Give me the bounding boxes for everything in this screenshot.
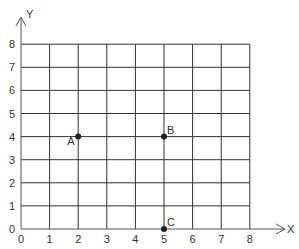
y-axis-label: Y [26, 8, 34, 20]
tick-labels: 012345678012345678 [9, 38, 253, 245]
y-tick-label: 4 [9, 131, 15, 143]
coordinate-grid: Y X 012345678012345678 ABC [0, 0, 299, 249]
data-points: ABC [67, 124, 175, 232]
point-label-b: B [167, 124, 174, 136]
y-tick-label: 0 [9, 223, 15, 235]
point-label-c: C [167, 216, 175, 228]
x-tick-label: 7 [218, 233, 224, 245]
point-a [75, 134, 81, 140]
grid-lines [21, 44, 250, 229]
y-tick-label: 3 [9, 154, 15, 166]
point-label-a: A [67, 135, 75, 147]
x-tick-label: 0 [18, 233, 24, 245]
y-tick-label: 5 [9, 108, 15, 120]
x-tick-label: 4 [132, 233, 138, 245]
x-tick-label: 1 [47, 233, 53, 245]
y-tick-label: 6 [9, 84, 15, 96]
x-tick-label: 3 [104, 233, 110, 245]
x-tick-label: 6 [190, 233, 196, 245]
y-tick-label: 1 [9, 200, 15, 212]
x-tick-label: 2 [75, 233, 81, 245]
y-tick-label: 8 [9, 38, 15, 50]
y-tick-label: 7 [9, 61, 15, 73]
x-tick-label: 5 [161, 233, 167, 245]
x-tick-label: 8 [247, 233, 253, 245]
axes: Y X [16, 8, 295, 235]
x-axis-label: X [287, 223, 295, 235]
y-tick-label: 2 [9, 177, 15, 189]
